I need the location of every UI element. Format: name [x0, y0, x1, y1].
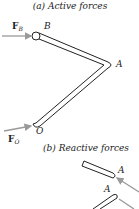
pin-b	[32, 32, 40, 40]
member-upper-outer-edge	[39, 33, 111, 68]
caption-active-forces: (a) Active forces	[33, 1, 108, 11]
member-lower-inner-edge	[36, 65, 104, 123]
point-o-label: O	[36, 126, 44, 136]
bent-member	[32, 32, 111, 127]
reactive-a-lower-label: A	[103, 184, 111, 194]
member-upper-inner-edge	[39, 39, 104, 65]
reactive-force-upper-arrow	[117, 178, 139, 192]
caption-reactive-forces: (b) Reactive forces	[43, 143, 129, 153]
reactive-force-lower-arrow	[119, 199, 134, 209]
force-fb-label: FB	[12, 21, 23, 32]
point-b-label: B	[43, 21, 51, 31]
reactive-a-upper-label: A	[117, 165, 125, 175]
point-a-label: A	[115, 59, 123, 69]
force-fo-arrow	[4, 126, 31, 131]
member-lower-outer-edge	[33, 68, 108, 127]
reactive-lower-segment	[93, 194, 117, 209]
caption-b-text: (b) Reactive forces	[43, 143, 129, 153]
segment-upper-body	[82, 161, 115, 178]
caption-a-text: (a) Active forces	[33, 1, 108, 11]
reactive-upper-segment	[82, 161, 115, 178]
force-fo-label: FO	[8, 134, 19, 145]
diagram-canvas: (a) Active forces FB B A FO O (b) Reacti…	[0, 0, 139, 209]
segment-lower-body	[93, 194, 117, 209]
